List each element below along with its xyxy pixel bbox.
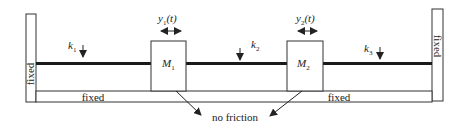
mass-m2: M2 (287, 41, 323, 91)
right-wall-label: fixed (432, 35, 444, 58)
y2-arg: (t) (304, 12, 315, 25)
spring-k1-sub: 1 (73, 46, 77, 54)
svg-text:k3: k3 (364, 42, 373, 57)
mass-m1: M1 (151, 41, 186, 91)
svg-text:k2: k2 (251, 38, 260, 53)
spring-k3: k3 (364, 42, 380, 59)
right-wall: fixed (432, 9, 444, 101)
floor: fixed fixed (36, 91, 432, 103)
spring-mass-diagram: fixed fixed fixed fixed k1 k2 k3 M1 y1(t… (0, 0, 465, 129)
no-friction-label: no friction (212, 111, 259, 123)
displacement-y1: y1(t) (157, 12, 181, 31)
y1-arg: (t) (166, 12, 177, 25)
floor-right-label: fixed (328, 91, 351, 103)
displacement-y2: y2(t) (295, 12, 317, 31)
spring-k1: k1 (68, 39, 83, 57)
svg-text:k1: k1 (68, 39, 77, 54)
mass-m1-sub: 1 (171, 64, 175, 72)
spring-k3-sub: 3 (369, 49, 373, 57)
spring-k2-sub: 2 (256, 45, 260, 53)
mass-m2-sub: 2 (306, 64, 310, 72)
svg-text:y2(t): y2(t) (295, 12, 315, 27)
spring-rod (36, 62, 432, 65)
left-wall-label: fixed (24, 62, 36, 85)
spring-k2: k2 (240, 38, 260, 60)
floor-left-label: fixed (82, 91, 105, 103)
svg-text:y1(t): y1(t) (157, 12, 177, 27)
left-wall: fixed (24, 14, 36, 102)
